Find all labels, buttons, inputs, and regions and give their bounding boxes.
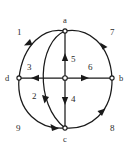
edge-label-9: 9 bbox=[16, 124, 21, 133]
edge-1-group bbox=[19, 30, 65, 78]
edge-label-6: 6 bbox=[88, 63, 93, 72]
edge-label-4: 4 bbox=[71, 95, 76, 104]
vertex-node-center[interactable] bbox=[63, 76, 68, 81]
vertex-node-d[interactable] bbox=[17, 76, 21, 80]
vertex-label-c: c bbox=[63, 135, 67, 144]
edge-label-7: 7 bbox=[110, 28, 115, 37]
vertex-node-a[interactable] bbox=[63, 29, 67, 33]
edge-label-8: 8 bbox=[110, 124, 115, 133]
vertex-label-b: b bbox=[119, 74, 123, 83]
vertex-label-d: d bbox=[5, 74, 9, 83]
edge-8-arrowhead bbox=[98, 109, 106, 117]
vertex-label-a: a bbox=[63, 16, 67, 25]
edge-3-arrowhead bbox=[31, 75, 39, 81]
edge-label-3: 3 bbox=[27, 63, 32, 72]
edge-1-path bbox=[19, 30, 65, 78]
vertex-node-c[interactable] bbox=[63, 126, 67, 130]
edge-label-1: 1 bbox=[17, 28, 22, 37]
edge-2-path bbox=[43, 31, 65, 128]
vertex-node-b[interactable] bbox=[110, 76, 114, 80]
edge-4-arrowhead bbox=[62, 97, 68, 105]
edge-6-arrowhead bbox=[81, 75, 89, 81]
edge-2-group bbox=[42, 31, 65, 128]
edge-1-arrowhead bbox=[24, 39, 33, 46]
edge-label-2: 2 bbox=[32, 92, 37, 101]
graph-figure: a b c d 1 2 3 4 5 6 7 8 9 bbox=[0, 0, 132, 153]
edge-9-group bbox=[19, 78, 65, 131]
edge-5-arrowhead bbox=[62, 53, 68, 61]
edge-label-5: 5 bbox=[71, 55, 76, 64]
